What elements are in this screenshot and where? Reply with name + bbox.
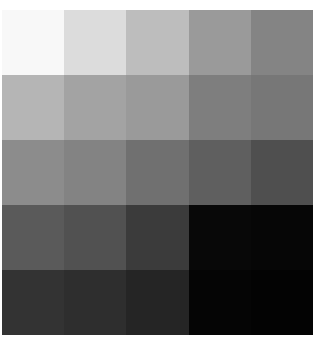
gray-patch xyxy=(251,10,313,75)
gray-patch xyxy=(251,270,313,335)
gray-patch xyxy=(189,10,251,75)
gray-patch xyxy=(189,75,251,140)
gray-patch xyxy=(64,270,126,335)
gray-patch xyxy=(126,140,188,205)
gray-patch xyxy=(64,10,126,75)
gray-patch xyxy=(126,75,188,140)
gray-patch xyxy=(64,205,126,270)
gray-patch xyxy=(2,10,64,75)
gray-patch xyxy=(189,140,251,205)
grayscale-grid xyxy=(2,10,313,335)
gray-patch xyxy=(64,75,126,140)
gray-patch xyxy=(189,205,251,270)
gray-patch xyxy=(2,205,64,270)
gray-patch xyxy=(189,270,251,335)
gray-patch xyxy=(251,140,313,205)
gray-patch xyxy=(126,205,188,270)
gray-patch xyxy=(64,140,126,205)
gray-patch xyxy=(2,270,64,335)
gray-patch xyxy=(251,75,313,140)
gray-patch xyxy=(126,10,188,75)
gray-patch xyxy=(2,75,64,140)
gray-patch xyxy=(251,205,313,270)
gray-patch xyxy=(2,140,64,205)
gray-patch xyxy=(126,270,188,335)
